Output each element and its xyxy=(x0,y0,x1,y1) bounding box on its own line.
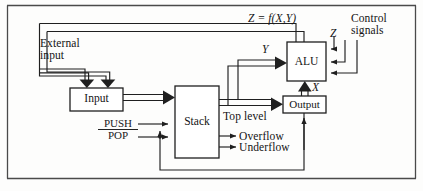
alu-y-arrowhead xyxy=(275,57,287,70)
output-block-label: Output xyxy=(283,98,326,110)
input-to-stack-arrowhead xyxy=(163,91,175,105)
alu-block-label: ALU xyxy=(287,55,326,67)
alu-x-arrowhead xyxy=(298,81,312,92)
z-signal-label: Z xyxy=(330,27,337,40)
signal-push-pop xyxy=(138,124,168,137)
underflow-label: Underflow xyxy=(239,141,290,154)
output-feedback-junction-dot xyxy=(158,135,161,138)
x-signal-label: X xyxy=(312,81,319,94)
stack-block-label: Stack xyxy=(175,115,219,127)
z-function-label: Z = f(X,Y) xyxy=(248,12,296,25)
push-label: PUSH xyxy=(98,118,138,129)
control-signals-label-line1: Control xyxy=(351,12,387,25)
external-input-arrowhead xyxy=(80,80,95,89)
signal-stack-flags xyxy=(219,136,236,147)
top-level-bus-arrowhead xyxy=(271,98,283,112)
input-block-label: Input xyxy=(70,92,123,104)
pop-label: POP xyxy=(98,129,138,141)
y-signal-label: Y xyxy=(262,43,269,56)
external-input-label-line2: input xyxy=(40,49,64,62)
signal-top-level-to-alu-y xyxy=(228,60,276,106)
external-input-label-line1: External xyxy=(40,37,80,50)
signal-top-level-bus xyxy=(219,100,272,106)
alu-feedback-arrowhead xyxy=(101,80,116,89)
figure-container: Input Stack ALU Output External input Z … xyxy=(0,0,423,191)
top-level-label: Top level xyxy=(223,110,267,123)
control-signals-label-line2: signals xyxy=(351,24,384,37)
signal-control-lines xyxy=(331,36,357,73)
push-pop-label: PUSH POP xyxy=(98,118,138,141)
signal-output-to-alu-x xyxy=(302,91,309,96)
signal-input-to-stack xyxy=(123,95,164,101)
